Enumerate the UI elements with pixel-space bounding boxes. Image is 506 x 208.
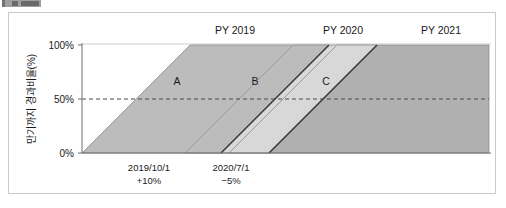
annotation-2019-change: +10%	[137, 175, 162, 186]
band-c-letter: C	[322, 75, 330, 87]
chart-figure: PY 2019 PY 2020 PY 2021	[9, 13, 497, 195]
py-2021-label: PY 2021	[421, 24, 461, 36]
py-2020-label: PY 2020	[323, 24, 363, 36]
y-tick-label-0: 0%	[60, 148, 75, 159]
annotation-2020-date: 2020/7/1	[213, 162, 250, 173]
chart-svg: PY 2019 PY 2020 PY 2021	[9, 13, 497, 195]
screenshot-root: PY 2019 PY 2020 PY 2021	[0, 0, 506, 208]
band-a-letter: A	[173, 75, 180, 87]
capture-artifact-bar	[2, 0, 41, 7]
annotation-2019-date: 2019/10/1	[128, 162, 170, 173]
annotation-2020-change: −5%	[221, 175, 241, 186]
y-tick-label-50: 50%	[54, 94, 74, 105]
y-axis-title: 만기까지 경과비율(%)	[25, 54, 37, 144]
y-tick-label-100: 100%	[48, 40, 74, 51]
py-2019-label: PY 2019	[215, 24, 255, 36]
figure-frame: PY 2019 PY 2020 PY 2021	[8, 12, 496, 194]
band-b-letter: B	[251, 75, 258, 87]
